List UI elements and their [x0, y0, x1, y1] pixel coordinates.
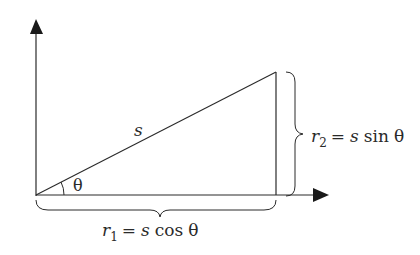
hypotenuse-label: s — [134, 120, 143, 140]
right-brace — [286, 72, 303, 196]
r2-equals: = — [331, 126, 345, 146]
r2-angle: θ — [394, 126, 404, 146]
angle-arc — [61, 182, 64, 195]
r2-subscript: 2 — [319, 136, 327, 150]
x-axis-arrowhead-icon — [313, 188, 329, 202]
r2-func: sin — [364, 126, 389, 146]
r1-s: s — [141, 220, 150, 240]
horizontal-component-label: r1=scosθ — [102, 220, 199, 244]
hypotenuse-s — [36, 72, 276, 195]
angle-label: θ — [73, 176, 83, 195]
r1-angle: θ — [188, 220, 198, 240]
y-axis-arrowhead-icon — [30, 19, 43, 34]
r1-subscript: 1 — [110, 230, 118, 244]
vertical-component-label: r2=ssinθ — [311, 126, 404, 150]
r1-equals: = — [122, 220, 136, 240]
r2-s: s — [350, 126, 359, 146]
r1-func: cos — [155, 220, 183, 240]
vector-diagram: s θ r2=ssinθ r1=scosθ — [0, 0, 420, 255]
bottom-brace — [36, 200, 276, 217]
